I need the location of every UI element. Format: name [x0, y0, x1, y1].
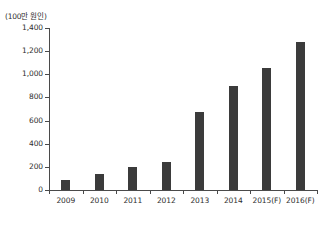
- x-tick-mark: [150, 190, 151, 194]
- x-tick-label: 2014: [224, 196, 243, 205]
- plot-area: 02004006008001,0001,2001,400: [49, 28, 317, 190]
- bar: [229, 86, 238, 190]
- y-tick-label: 1,400: [22, 23, 43, 32]
- bar-chart: (100만 원인) 02004006008001,0001,2001,400 2…: [0, 0, 329, 225]
- bar: [296, 42, 305, 190]
- bar: [162, 162, 171, 190]
- y-tick-label: 1,000: [22, 69, 43, 78]
- y-tick-label: 800: [29, 92, 43, 101]
- x-tick-mark: [49, 190, 50, 194]
- x-tick-label: 2009: [56, 196, 75, 205]
- bar-series: [49, 28, 317, 190]
- x-tick-label: 2015(F): [252, 196, 281, 205]
- x-tick-label: 2011: [123, 196, 142, 205]
- bar: [128, 167, 137, 190]
- y-tick-label: 1,200: [22, 46, 43, 55]
- y-tick-label: 600: [29, 116, 43, 125]
- x-tick-label: 2013: [190, 196, 209, 205]
- y-tick-label: 400: [29, 139, 43, 148]
- x-tick-mark: [116, 190, 117, 194]
- x-tick-mark: [183, 190, 184, 194]
- x-tick-mark: [317, 190, 318, 194]
- x-tick-mark: [217, 190, 218, 194]
- x-tick-label: 2016(F): [286, 196, 315, 205]
- y-tick-label: 200: [29, 162, 43, 171]
- x-tick-label: 2010: [90, 196, 109, 205]
- bar: [61, 180, 70, 190]
- x-tick-label: 2012: [157, 196, 176, 205]
- bar: [195, 112, 204, 190]
- x-tick-mark: [284, 190, 285, 194]
- x-tick-mark: [83, 190, 84, 194]
- x-tick-mark: [250, 190, 251, 194]
- y-tick-label: 0: [38, 185, 43, 194]
- x-axis-labels: 2009201020112012201320142015(F)2016(F): [49, 196, 317, 210]
- y-axis-unit-label: (100만 원인): [5, 10, 47, 21]
- bar: [95, 174, 104, 190]
- bar: [262, 68, 271, 190]
